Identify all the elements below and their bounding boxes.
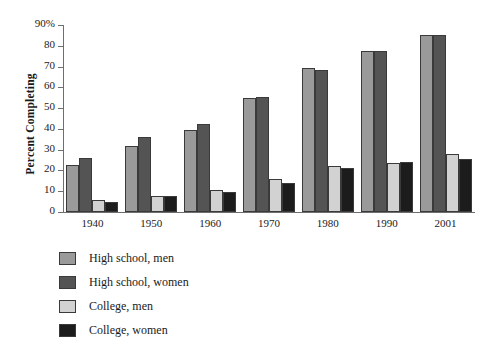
bar <box>105 202 118 212</box>
bar <box>315 70 328 212</box>
y-tick-label: 20 <box>44 162 55 174</box>
legend-item: High school, men <box>59 246 359 270</box>
bar-group: 1950 <box>125 25 177 212</box>
legend-label: College, men <box>89 299 153 314</box>
legend-label: College, women <box>89 323 168 338</box>
bar <box>92 200 105 212</box>
bar-group: 1940 <box>66 25 118 212</box>
x-tick-label: 1960 <box>199 217 221 229</box>
bar-group: 1970 <box>243 25 295 212</box>
legend-item: College, women <box>59 318 359 342</box>
bar <box>138 137 151 212</box>
bar <box>79 158 92 212</box>
bar <box>184 130 197 212</box>
bar-group: 1990 <box>361 25 413 212</box>
x-tick-label: 1970 <box>258 217 280 229</box>
y-tick-label: 40 <box>44 121 55 133</box>
y-tick-mark <box>58 46 64 47</box>
chart-legend: High school, menHigh school, womenColleg… <box>59 246 359 342</box>
bar-group: 1960 <box>184 25 236 212</box>
legend-label: High school, women <box>89 275 189 290</box>
y-tick-mark <box>58 191 64 192</box>
y-tick-label: 80 <box>44 38 55 50</box>
bar-group: 1980 <box>302 25 354 212</box>
bar <box>164 196 177 212</box>
legend-label: High school, men <box>89 251 174 266</box>
y-tick-label: 0 <box>50 204 56 216</box>
bar <box>197 124 210 212</box>
bar <box>243 98 256 212</box>
legend-swatch <box>59 324 76 337</box>
bar <box>328 166 341 212</box>
x-tick-label: 1990 <box>376 217 398 229</box>
y-tick-mark <box>58 108 64 109</box>
bar <box>269 179 282 212</box>
y-tick-mark <box>58 170 64 171</box>
bar <box>446 154 459 212</box>
y-tick-mark <box>58 87 64 88</box>
bar <box>433 35 446 212</box>
y-tick-mark <box>58 129 64 130</box>
bar <box>387 163 400 212</box>
y-tick-mark <box>58 150 64 151</box>
legend-swatch <box>59 276 76 289</box>
bar <box>420 35 433 212</box>
x-axis-line <box>63 212 475 213</box>
legend-item: College, men <box>59 294 359 318</box>
legend-item: High school, women <box>59 270 359 294</box>
bar <box>400 162 413 212</box>
x-tick-label: 1980 <box>317 217 339 229</box>
bar <box>282 183 295 212</box>
legend-swatch <box>59 300 76 313</box>
y-tick-label: 70 <box>44 59 55 71</box>
bar <box>66 165 79 212</box>
x-tick-label: 1940 <box>81 217 103 229</box>
y-axis-title: Percent Completing <box>24 34 36 214</box>
bar <box>459 159 472 212</box>
bar <box>151 196 164 212</box>
bar <box>341 168 354 212</box>
plot-area: 0102030405060708090% 1940195019601970198… <box>63 25 475 212</box>
y-tick-mark <box>58 67 64 68</box>
x-tick-label: 1950 <box>140 217 162 229</box>
bar-chart-figure: Percent Completing 0102030405060708090% … <box>0 0 490 344</box>
y-tick-mark <box>58 212 64 213</box>
y-tick-label: 10 <box>44 183 55 195</box>
y-tick-label: 50 <box>44 100 55 112</box>
y-axis-line <box>63 25 64 212</box>
bar <box>125 146 138 212</box>
bar <box>374 51 387 212</box>
bar <box>361 51 374 212</box>
y-tick-mark <box>58 25 64 26</box>
bar-group: 2001 <box>420 25 472 212</box>
y-tick-label: 30 <box>44 142 55 154</box>
bar <box>256 97 269 212</box>
y-tick-label: 60 <box>44 79 55 91</box>
bar <box>302 68 315 212</box>
x-tick-label: 2001 <box>435 217 457 229</box>
y-tick-label: 90% <box>35 17 55 29</box>
legend-swatch <box>59 252 76 265</box>
bar <box>223 192 236 212</box>
bar <box>210 190 223 212</box>
